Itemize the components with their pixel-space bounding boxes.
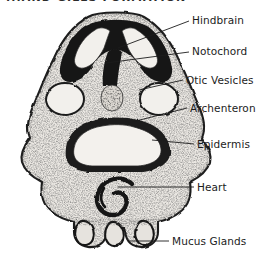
embryo-section-figure: ...AND GILLS FORMATION bbox=[0, 0, 268, 257]
label-mucus-glands: Mucus Glands bbox=[172, 235, 246, 247]
embryo-illustration bbox=[0, 0, 268, 257]
label-hindbrain: Hindbrain bbox=[192, 14, 244, 26]
otic-right bbox=[140, 83, 178, 115]
label-heart: Heart bbox=[197, 181, 227, 193]
label-archenteron: Archenteron bbox=[190, 102, 256, 114]
notochord-body bbox=[101, 85, 123, 111]
label-epidermis: Epidermis bbox=[197, 138, 250, 150]
label-otic-vesicles: Otic Vesicles bbox=[186, 74, 254, 86]
otic-left bbox=[46, 83, 84, 115]
label-notochord: Notochord bbox=[192, 45, 247, 57]
